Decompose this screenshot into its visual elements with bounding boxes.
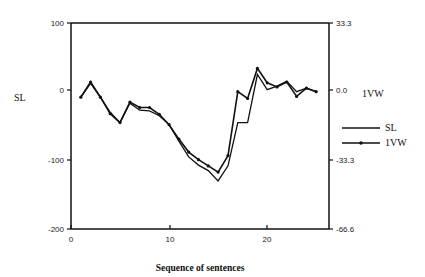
legend-sl-label: SL — [385, 122, 397, 133]
x-tick-label: 0 — [69, 235, 74, 244]
data-point-marker — [128, 100, 131, 103]
data-point-marker — [109, 112, 112, 115]
y2-tick-label: 33.3 — [336, 19, 352, 28]
left-axis-title: SL — [14, 92, 26, 103]
data-point-marker — [315, 90, 318, 93]
y2-tick-label: -66.6 — [336, 225, 355, 234]
y-tick-label: 100 — [51, 19, 65, 28]
data-point-marker — [158, 113, 161, 116]
y2-tick-label: 0.0 — [336, 86, 348, 95]
x-axis-title: Sequence of sentences — [156, 263, 245, 273]
y2-tick-label: -33.3 — [336, 156, 355, 165]
y-tick-label: -100 — [48, 156, 65, 165]
data-point-marker — [295, 95, 298, 98]
line-chart: 100 0 -100 -200 33.3 0.0 -33.3 -66.6 0 1… — [0, 0, 425, 277]
data-point-marker — [138, 106, 141, 109]
data-point-marker — [236, 90, 239, 93]
right-axis-title: 1VW — [362, 88, 384, 99]
legend-1vw-marker-icon — [359, 141, 363, 145]
data-point-marker — [246, 97, 249, 100]
data-point-marker — [197, 158, 200, 161]
x-tick-label: 10 — [166, 235, 175, 244]
plot-frame — [71, 23, 329, 229]
data-point-marker — [168, 123, 171, 126]
y-tick-label: 0 — [60, 86, 65, 95]
data-point-marker — [207, 164, 210, 167]
data-point-marker — [79, 96, 82, 99]
data-point-marker — [187, 151, 190, 154]
data-point-marker — [177, 138, 180, 141]
series-sl-line — [81, 75, 316, 181]
data-point-marker — [99, 96, 102, 99]
data-point-marker — [89, 80, 92, 83]
y-tick-label: -200 — [48, 225, 65, 234]
x-tick-label: 20 — [263, 235, 272, 244]
data-point-marker — [275, 85, 278, 88]
data-point-marker — [285, 80, 288, 83]
data-point-marker — [305, 87, 308, 90]
data-point-marker — [148, 106, 151, 109]
data-point-marker — [226, 154, 229, 157]
legend: SL 1VW — [342, 122, 407, 148]
data-point-marker — [217, 171, 220, 174]
series-1vw-markers — [79, 67, 318, 174]
data-point-marker — [266, 81, 269, 84]
data-point-marker — [256, 67, 259, 70]
legend-1vw-label: 1VW — [385, 137, 407, 148]
data-point-marker — [118, 121, 121, 124]
